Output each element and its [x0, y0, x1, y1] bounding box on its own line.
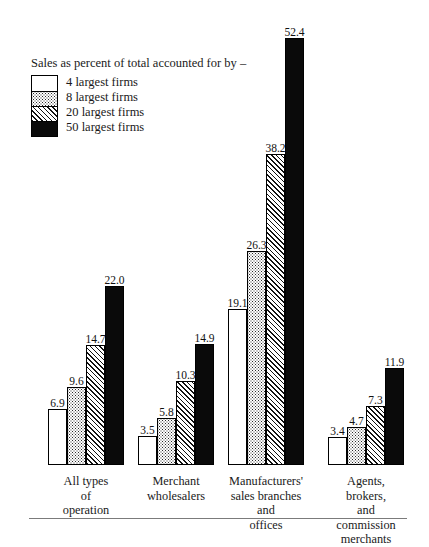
chart-legend: Sales as percent of total accounted for … [31, 56, 246, 137]
bar[interactable]: 4.7 [347, 427, 366, 465]
bar-value-label: 11.9 [385, 356, 405, 368]
bar[interactable]: 10.3 [176, 381, 195, 465]
bar-value-label: 10.3 [175, 369, 195, 381]
category-label: Merchant wholesalers [147, 474, 205, 503]
bar-value-label: 14.7 [85, 333, 105, 345]
bar[interactable]: 14.9 [195, 344, 214, 465]
bar[interactable]: 38.2 [266, 154, 285, 465]
bar[interactable]: 22.0 [105, 286, 124, 465]
bar[interactable]: 3.4 [328, 437, 347, 465]
legend-swatch-white [32, 76, 57, 91]
legend-label: 4 largest firms [66, 75, 144, 90]
bar-value-label: 52.4 [284, 26, 304, 38]
bar-value-label: 22.0 [104, 274, 124, 286]
legend-label: 20 largest firms [66, 105, 144, 120]
bar-value-label: 4.7 [349, 415, 363, 427]
bar-value-label: 19.1 [227, 297, 247, 309]
legend-label-column: 4 largest firms8 largest firms20 largest… [66, 75, 144, 135]
bar[interactable]: 5.8 [157, 418, 176, 465]
bar-value-label: 26.3 [246, 239, 266, 251]
bar-value-label: 38.2 [265, 142, 285, 154]
bar[interactable]: 26.3 [247, 251, 266, 465]
legend-swatch-solid [32, 121, 57, 136]
bar[interactable]: 3.5 [138, 436, 157, 465]
legend-label: 8 largest firms [66, 90, 144, 105]
bar[interactable]: 14.7 [86, 345, 105, 465]
bar-value-label: 3.5 [140, 424, 154, 436]
category-label: Manufacturers' sales branches and office… [229, 474, 303, 532]
legend-swatch-column [31, 75, 58, 137]
bar[interactable]: 19.1 [228, 309, 247, 465]
legend-body: 4 largest firms8 largest firms20 largest… [31, 75, 246, 137]
bar[interactable]: 11.9 [385, 368, 404, 465]
bar-value-label: 7.3 [368, 394, 382, 406]
bar-group-bars: 3.44.77.311.9 [328, 35, 404, 465]
bar-group: 3.44.77.311.9Agents, brokers, and commis… [328, 35, 404, 465]
bar-value-label: 6.9 [50, 397, 64, 409]
legend-swatch-stipple [32, 91, 57, 106]
category-label: Agents, brokers, and commission merchant… [336, 474, 395, 547]
category-label: All types of operation [63, 474, 109, 518]
bottom-rule [29, 518, 407, 519]
bar[interactable]: 52.4 [285, 38, 304, 465]
legend-swatch-hatch [32, 106, 57, 121]
bar-value-label: 3.4 [330, 425, 344, 437]
bar[interactable]: 7.3 [366, 406, 385, 465]
bar-value-label: 9.6 [69, 375, 83, 387]
legend-title: Sales as percent of total accounted for … [31, 56, 246, 70]
bar[interactable]: 6.9 [48, 409, 67, 465]
bar-value-label: 5.8 [159, 406, 173, 418]
bar[interactable]: 9.6 [67, 387, 86, 465]
legend-label: 50 largest firms [66, 120, 144, 135]
bar-value-label: 14.9 [194, 332, 214, 344]
